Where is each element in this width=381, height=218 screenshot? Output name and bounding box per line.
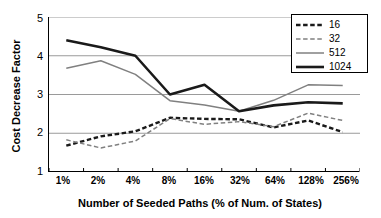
y-axis-tick-5: 5 [17, 13, 43, 24]
x-axis-tick-9: 256% [323, 175, 369, 186]
legend-item-1024[interactable]: 1024 [296, 60, 363, 73]
x-axis-title: Number of Seeded Paths (% of Num. of Sta… [30, 197, 370, 209]
legend-swatch-icon-32 [296, 34, 324, 44]
legend-label-32: 32 [329, 34, 340, 44]
legend-item-16[interactable]: 16 [296, 18, 363, 31]
legend-swatch-icon-1024 [296, 62, 324, 72]
y-axis-tick-4: 4 [17, 51, 43, 62]
legend-label-1024: 1024 [329, 62, 351, 72]
legend-label-16: 16 [329, 20, 340, 30]
chart-legend: 16 32 512 1024 [291, 14, 368, 73]
series-line-16 [66, 118, 342, 146]
legend-item-512[interactable]: 512 [296, 46, 363, 59]
legend-item-32[interactable]: 32 [296, 32, 363, 45]
legend-label-512: 512 [329, 48, 346, 58]
legend-swatch-icon-16 [296, 20, 324, 30]
y-axis-tick-3: 3 [17, 89, 43, 100]
legend-swatch-icon-512 [296, 48, 324, 58]
chart-container: Cost Decrease Factor 5 4 3 2 1 1% 2% 4% … [0, 0, 381, 218]
y-axis-tick-2: 2 [17, 127, 43, 138]
